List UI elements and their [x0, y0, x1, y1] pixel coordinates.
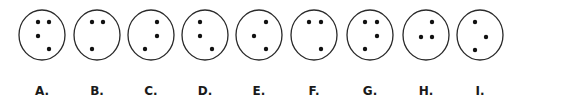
dot	[473, 20, 477, 24]
dot	[419, 35, 423, 39]
option-c	[128, 10, 174, 60]
dot	[210, 47, 214, 51]
dot	[36, 34, 40, 38]
circle-outline	[457, 10, 503, 60]
option-g	[347, 10, 393, 60]
option-label: B.	[82, 84, 112, 98]
circle-outline	[128, 10, 174, 60]
option-f	[291, 10, 337, 60]
option-h	[403, 10, 449, 60]
dot-pattern-figure: A.B.C.D.E.F.G.H.I.	[0, 0, 571, 100]
dot	[143, 47, 147, 51]
dot	[252, 34, 256, 38]
dot	[375, 34, 379, 38]
circle-outline	[347, 10, 393, 60]
dot	[430, 35, 434, 39]
dot	[307, 20, 311, 24]
dot	[47, 20, 51, 24]
dot	[101, 20, 105, 24]
option-label: E.	[244, 84, 274, 98]
option-a	[19, 10, 65, 60]
dot	[319, 47, 323, 51]
circle-outline	[403, 10, 449, 60]
dot	[90, 47, 94, 51]
dot	[430, 20, 434, 24]
dot	[36, 20, 40, 24]
dot	[47, 47, 51, 51]
circle-outline	[291, 10, 337, 60]
circle-outline	[19, 10, 65, 60]
dot	[484, 35, 488, 39]
option-label: I.	[465, 84, 495, 98]
circle-outline	[74, 10, 120, 60]
circle-outline	[236, 10, 282, 60]
dot	[198, 34, 202, 38]
dot	[375, 20, 379, 24]
option-b	[74, 10, 120, 60]
dot	[319, 20, 323, 24]
option-d	[182, 10, 228, 60]
option-label: F.	[299, 84, 329, 98]
option-label: H.	[411, 84, 441, 98]
dot	[155, 20, 159, 24]
dot	[363, 20, 367, 24]
dot	[198, 20, 202, 24]
dot	[90, 20, 94, 24]
option-e	[236, 10, 282, 60]
option-label: D.	[190, 84, 220, 98]
dot	[363, 47, 367, 51]
option-label: C.	[136, 84, 166, 98]
dot	[264, 47, 268, 51]
dot	[473, 48, 477, 52]
dot	[264, 20, 268, 24]
option-i	[457, 10, 503, 60]
option-label: G.	[355, 84, 385, 98]
option-label: A.	[27, 84, 57, 98]
dot	[155, 34, 159, 38]
circle-outline	[182, 10, 228, 60]
